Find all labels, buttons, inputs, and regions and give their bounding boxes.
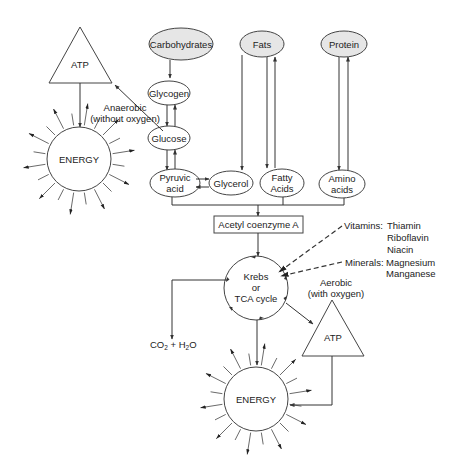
svg-text:Fats: Fats	[253, 39, 272, 50]
energy-ray-arrow-icon	[290, 390, 312, 393]
energy-ray-icon	[34, 152, 46, 154]
svg-text:Minerals:: Minerals:	[345, 257, 384, 268]
svg-text:or: or	[252, 282, 260, 293]
minerals-cofactor-label: Minerals: Magnesium Manganese	[345, 257, 436, 279]
svg-text:Carbohydrates: Carbohydrates	[150, 39, 213, 50]
glucose-node: Glucose	[148, 126, 190, 150]
svg-text:Vitamins:: Vitamins:	[344, 220, 383, 231]
aerobic-atp-triangle: ATP	[302, 300, 364, 356]
svg-text:Glycerol: Glycerol	[214, 178, 249, 189]
energy-ray-icon	[271, 358, 276, 369]
energy-ray-arrow-icon	[70, 193, 73, 215]
svg-text:Krebs: Krebs	[244, 271, 269, 282]
fatty-acids-node: Fatty Acids	[260, 169, 304, 197]
energy-ray-arrow-icon	[286, 414, 306, 424]
co2-h2o-label: CO2 + H2O	[150, 339, 197, 351]
svg-text:Glucose: Glucose	[152, 133, 187, 144]
pyruvic-acid-node: Pyruvic acid	[150, 169, 200, 197]
svg-text:Acetyl coenzyme A: Acetyl coenzyme A	[218, 219, 299, 230]
energy-ray-icon	[261, 433, 263, 445]
svg-text:Acids: Acids	[270, 183, 293, 194]
svg-text:Aerobic: Aerobic	[320, 277, 352, 288]
energy-ray-icon	[84, 193, 86, 205]
aerobic-energy-burst: ENERGY	[201, 344, 312, 455]
energy-ray-icon	[249, 354, 251, 366]
energy-ray-arrow-icon	[113, 150, 135, 153]
energy-ray-arrow-icon	[84, 104, 87, 126]
svg-text:Thiamin: Thiamin	[387, 220, 421, 231]
energy-ray-arrow-icon	[24, 164, 46, 167]
energy-ray-icon	[109, 138, 120, 143]
anaerobic-energy-burst: ENERGY	[24, 104, 135, 215]
svg-text:(with oxygen): (with oxygen)	[308, 288, 365, 299]
anaerobic-label: Anaerobic (without oxygen)	[90, 102, 160, 124]
svg-text:(without oxygen): (without oxygen)	[90, 113, 160, 124]
energy-ray-icon	[113, 164, 125, 166]
acetyl-coenzyme-a-box: Acetyl coenzyme A	[214, 216, 303, 233]
svg-text:Pyruvic: Pyruvic	[159, 172, 190, 183]
energy-ray-icon	[235, 429, 240, 440]
vitamins-cofactor-label: Vitamins: Thiamin Riboflavin Niacin	[344, 220, 429, 255]
energy-ray-icon	[103, 183, 111, 191]
carbohydrates-node: Carbohydrates	[149, 28, 213, 60]
energy-ray-arrow-icon	[94, 189, 104, 209]
svg-text:Manganese: Manganese	[386, 268, 436, 279]
energy-ray-icon	[58, 189, 63, 200]
svg-text:ENERGY: ENERGY	[59, 154, 100, 165]
svg-text:Riboflavin: Riboflavin	[387, 232, 429, 243]
svg-text:ATP: ATP	[324, 332, 342, 343]
aerobic-label: Aerobic (with oxygen)	[308, 277, 365, 299]
energy-ray-icon	[38, 174, 49, 179]
energy-ray-arrow-icon	[280, 359, 296, 375]
svg-text:ATP: ATP	[71, 59, 89, 70]
energy-ray-arrow-icon	[247, 433, 250, 455]
svg-text:Niacin: Niacin	[387, 244, 413, 255]
energy-ray-arrow-icon	[54, 109, 64, 129]
energy-ray-icon	[215, 414, 226, 419]
energy-ray-arrow-icon	[261, 344, 264, 366]
svg-text:CO2 + H2O: CO2 + H2O	[150, 339, 197, 351]
energy-ray-arrow-icon	[109, 174, 129, 184]
energy-ray-icon	[223, 366, 231, 374]
protein-node: Protein	[321, 31, 367, 57]
amino-acids-node: Amino acids	[319, 170, 365, 198]
energy-ray-arrow-icon	[216, 423, 232, 439]
svg-text:Glycogen: Glycogen	[149, 88, 189, 99]
energy-ray-arrow-icon	[29, 134, 49, 144]
svg-text:Amino: Amino	[329, 173, 356, 184]
fats-node: Fats	[240, 31, 284, 57]
cycle-arrow-icon	[229, 307, 233, 311]
anaerobic-atp-triangle: ATP	[49, 27, 112, 83]
svg-text:ENERGY: ENERGY	[236, 394, 277, 405]
svg-text:acid: acid	[166, 183, 183, 194]
energy-metabolism-diagram: Carbohydrates Fats Protein Glycogen Gluc…	[0, 0, 449, 467]
glycogen-node: Glycogen	[148, 81, 190, 105]
svg-text:Magnesium: Magnesium	[386, 257, 435, 268]
svg-text:Fatty: Fatty	[271, 172, 292, 183]
energy-ray-icon	[286, 378, 297, 383]
energy-ray-arrow-icon	[271, 429, 281, 449]
svg-text:Anaerobic: Anaerobic	[104, 102, 147, 113]
glycerol-node: Glycerol	[209, 171, 253, 195]
energy-ray-arrow-icon	[201, 404, 223, 407]
energy-ray-icon	[211, 392, 223, 394]
energy-ray-icon	[72, 114, 74, 126]
energy-ray-arrow-icon	[231, 349, 241, 369]
energy-ray-arrow-icon	[206, 374, 226, 384]
svg-text:Protein: Protein	[329, 39, 359, 50]
energy-ray-icon	[280, 423, 288, 431]
svg-text:TCA cycle: TCA cycle	[235, 293, 278, 304]
svg-text:acids: acids	[331, 184, 353, 195]
energy-ray-icon	[46, 126, 54, 134]
krebs-cycle-node: Krebs or TCA cycle	[224, 256, 288, 321]
energy-ray-arrow-icon	[39, 183, 55, 199]
